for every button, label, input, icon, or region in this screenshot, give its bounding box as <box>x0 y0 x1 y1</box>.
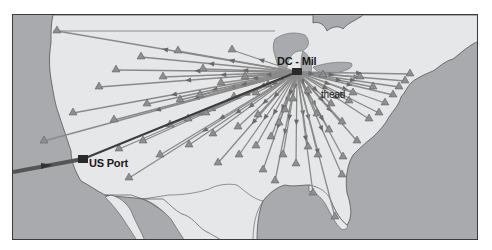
dc-label: DC - Mil <box>277 55 316 67</box>
hub-label: thead <box>321 89 345 100</box>
customer-marker-icon[interactable] <box>40 136 48 143</box>
network-map[interactable] <box>13 15 478 240</box>
dc-node[interactable] <box>292 68 302 75</box>
map-frame: DC - Mil US Port thead <box>12 14 478 240</box>
baja-peninsula <box>105 195 145 240</box>
port-node[interactable] <box>78 155 88 163</box>
port-label: US Port <box>89 157 128 169</box>
